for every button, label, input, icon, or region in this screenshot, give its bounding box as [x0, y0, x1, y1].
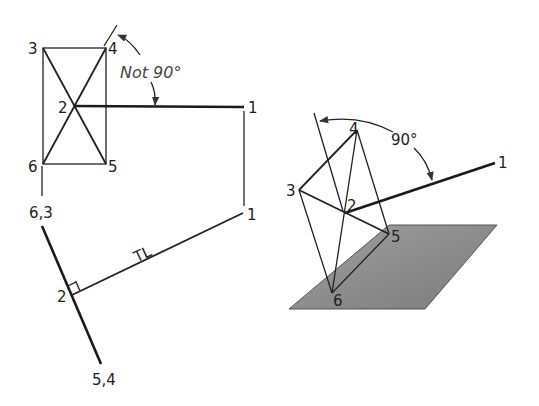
label-6-3: 6,3	[29, 204, 53, 222]
label-2: 2	[58, 99, 68, 117]
line-2-1	[345, 163, 495, 213]
angle-note-not-90: Not 90°	[120, 63, 181, 82]
pictorial-view: 4 3 2 5 6 1 90°	[286, 113, 508, 310]
label-1-top: 1	[248, 99, 258, 117]
line-2-1	[74, 106, 244, 107]
label-5-4: 5,4	[92, 371, 116, 389]
label-2: 2	[347, 197, 357, 215]
angle-arrow-upper	[118, 35, 140, 55]
angle-arrow-lower	[151, 82, 155, 105]
normal-line	[314, 113, 343, 211]
edge-3-6	[299, 190, 332, 293]
true-length-line	[72, 213, 243, 295]
label-3: 3	[286, 182, 296, 200]
perpendicular-line-plane-diagram: 3 4 2 6 5 1 Not 90° 6,3 2 1 5,4 TL 4	[0, 0, 539, 406]
angle-arrow-lower	[414, 148, 432, 180]
label-4: 4	[108, 40, 118, 58]
edge-4-3	[299, 130, 357, 190]
edge-4-5	[357, 130, 389, 234]
label-5: 5	[108, 158, 118, 176]
label-3: 3	[28, 40, 38, 58]
angle-note-90: 90°	[391, 131, 418, 149]
label-6: 6	[28, 158, 38, 176]
label-true-length: TL	[130, 242, 155, 266]
label-2-edge: 2	[57, 288, 67, 306]
label-4: 4	[349, 120, 359, 138]
label-5: 5	[391, 228, 401, 246]
label-6: 6	[333, 292, 343, 310]
label-1-bottom: 1	[247, 206, 257, 224]
edge-view: 6,3 2 1 5,4 TL	[29, 204, 257, 389]
diagonal-3-5	[299, 190, 389, 234]
front-view: 3 4 2 6 5 1 Not 90°	[28, 25, 258, 206]
plane-edge-line	[42, 226, 101, 364]
label-1: 1	[498, 154, 508, 172]
